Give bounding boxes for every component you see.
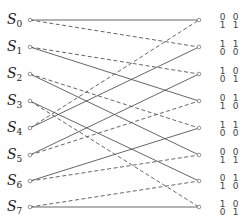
right-node-0 bbox=[197, 18, 201, 22]
state-name: S bbox=[7, 146, 17, 162]
trellis-edge-dashed bbox=[30, 47, 199, 74]
right-node-3 bbox=[197, 99, 201, 103]
output-3-a: 01 bbox=[218, 94, 227, 110]
state-index: 3 bbox=[17, 100, 23, 110]
state-index: 5 bbox=[17, 154, 23, 164]
output-4-a: 10 bbox=[218, 121, 227, 137]
output-1-b: 10 bbox=[231, 40, 240, 56]
trellis-edge-dashed bbox=[30, 181, 199, 207]
state-label-5: S5 bbox=[7, 147, 22, 164]
state-label-4: S4 bbox=[7, 120, 22, 137]
trellis-edge-solid bbox=[30, 101, 199, 181]
state-index: 6 bbox=[17, 180, 23, 190]
state-label-6: S6 bbox=[7, 173, 22, 190]
bit: 0 bbox=[231, 48, 240, 56]
state-name: S bbox=[7, 172, 17, 188]
state-label-3: S3 bbox=[7, 93, 22, 110]
bit: 1 bbox=[231, 156, 240, 164]
left-node-3 bbox=[28, 99, 32, 103]
output-6-b: 10 bbox=[231, 174, 240, 190]
output-7-a: 10 bbox=[218, 200, 227, 216]
state-index: 7 bbox=[17, 206, 23, 216]
output-5-b: 01 bbox=[231, 148, 240, 164]
left-node-2 bbox=[28, 72, 32, 76]
bit: 1 bbox=[218, 21, 227, 29]
bit: 1 bbox=[231, 208, 240, 216]
state-name: S bbox=[7, 38, 17, 54]
state-index: 0 bbox=[17, 19, 23, 29]
right-node-7 bbox=[197, 205, 201, 209]
state-label-0: S0 bbox=[7, 12, 22, 29]
bit: 1 bbox=[218, 156, 227, 164]
state-name: S bbox=[7, 11, 17, 27]
left-node-0 bbox=[28, 18, 32, 22]
right-node-2 bbox=[197, 72, 201, 76]
trellis-edge-solid bbox=[30, 128, 199, 181]
right-node-4 bbox=[197, 126, 201, 130]
state-name: S bbox=[7, 198, 17, 214]
right-node-6 bbox=[197, 179, 201, 183]
bit: 1 bbox=[231, 75, 240, 83]
bit: 0 bbox=[218, 75, 227, 83]
output-2-b: 01 bbox=[231, 67, 240, 83]
trellis-diagram: S0 S1 S2 S3 S4 S5 S6 S7 01 01 10 10 10 0… bbox=[0, 0, 247, 224]
output-1-a: 10 bbox=[218, 40, 227, 56]
bit: 1 bbox=[218, 182, 227, 190]
output-2-a: 10 bbox=[218, 67, 227, 83]
bit: 0 bbox=[218, 129, 227, 137]
bit: 0 bbox=[218, 208, 227, 216]
state-index: 1 bbox=[17, 46, 23, 56]
trellis-edge-dashed bbox=[30, 20, 199, 128]
state-index: 2 bbox=[17, 73, 23, 83]
output-6-a: 01 bbox=[218, 174, 227, 190]
bit: 0 bbox=[231, 102, 240, 110]
right-node-5 bbox=[197, 153, 201, 157]
bit: 1 bbox=[231, 21, 240, 29]
output-0-a: 01 bbox=[218, 13, 227, 29]
bit: 1 bbox=[218, 102, 227, 110]
state-label-7: S7 bbox=[7, 199, 22, 216]
trellis-edge-dashed bbox=[30, 74, 199, 128]
trellis-edge-dashed bbox=[30, 20, 199, 47]
trellis-edge-dashed bbox=[30, 155, 199, 181]
left-node-5 bbox=[28, 153, 32, 157]
state-label-1: S1 bbox=[7, 39, 22, 56]
state-label-2: S2 bbox=[7, 66, 22, 83]
output-3-b: 10 bbox=[231, 94, 240, 110]
right-node-1 bbox=[197, 45, 201, 49]
bit: 0 bbox=[231, 182, 240, 190]
trellis-edges bbox=[0, 0, 247, 224]
state-index: 4 bbox=[17, 127, 23, 137]
output-5-a: 01 bbox=[218, 148, 227, 164]
trellis-edge-solid bbox=[30, 47, 199, 128]
left-node-7 bbox=[28, 205, 32, 209]
bit: 0 bbox=[231, 129, 240, 137]
left-node-6 bbox=[28, 179, 32, 183]
trellis-edge-dashed bbox=[30, 101, 199, 207]
left-node-4 bbox=[28, 126, 32, 130]
output-7-b: 01 bbox=[231, 200, 240, 216]
trellis-edge-dashed bbox=[30, 101, 199, 155]
bit: 0 bbox=[218, 48, 227, 56]
state-name: S bbox=[7, 119, 17, 135]
output-4-b: 10 bbox=[231, 121, 240, 137]
state-name: S bbox=[7, 65, 17, 81]
output-0-b: 01 bbox=[231, 13, 240, 29]
left-node-1 bbox=[28, 45, 32, 49]
state-name: S bbox=[7, 92, 17, 108]
